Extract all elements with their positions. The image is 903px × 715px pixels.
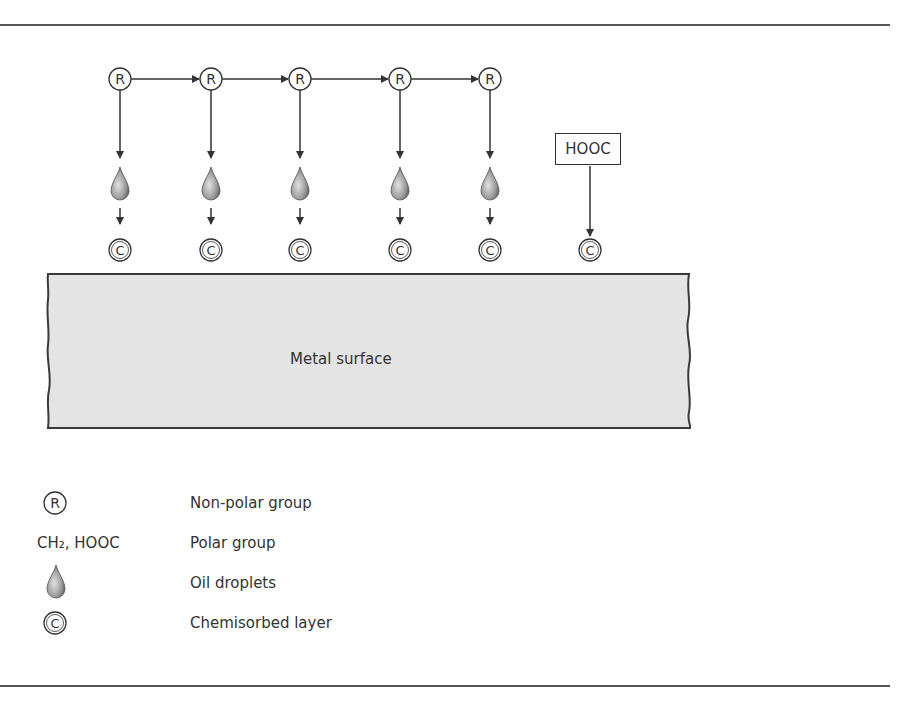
- svg-text:R: R: [395, 71, 405, 87]
- oil-droplet-icon: [391, 167, 409, 200]
- bottom-rule: [0, 685, 890, 687]
- legend-label: Oil droplets: [190, 570, 276, 596]
- oil-droplet-icon: [291, 167, 309, 200]
- lubrication-diagram: R C R C R C R C R: [0, 0, 903, 715]
- svg-text:C: C: [585, 243, 594, 258]
- hooc-column: C: [579, 166, 601, 261]
- svg-text:R: R: [115, 71, 125, 87]
- svg-text:R: R: [295, 71, 305, 87]
- legend-label: Non-polar group: [190, 490, 312, 516]
- legend-label: Polar group: [190, 530, 276, 556]
- svg-text:R: R: [485, 71, 495, 87]
- molecule-column-3: R C: [289, 68, 311, 261]
- svg-text:C: C: [50, 616, 59, 631]
- svg-text:C: C: [295, 243, 304, 258]
- svg-text:C: C: [395, 243, 404, 258]
- molecule-column-1: R C: [109, 68, 131, 261]
- oil-droplet-icon: [111, 167, 129, 200]
- hooc-polar-group-box: HOOC: [555, 133, 621, 165]
- svg-text:C: C: [115, 243, 124, 258]
- legend-droplet-icon: [47, 565, 65, 598]
- molecule-column-4: R C: [389, 68, 411, 261]
- oil-droplet-icon: [202, 167, 220, 200]
- svg-text:C: C: [485, 243, 494, 258]
- svg-text:C: C: [206, 243, 215, 258]
- legend-symbols: R C: [44, 492, 66, 634]
- molecule-column-5: R C: [479, 68, 501, 261]
- metal-surface-label: Metal surface: [290, 350, 392, 368]
- oil-droplet-icon: [481, 167, 499, 200]
- legend-label: Chemisorbed layer: [190, 610, 332, 636]
- legend-polar-symbol: CH₂, HOOC: [37, 530, 147, 556]
- svg-text:R: R: [206, 71, 216, 87]
- molecule-column-2: R C: [200, 68, 222, 261]
- svg-text:R: R: [50, 495, 60, 511]
